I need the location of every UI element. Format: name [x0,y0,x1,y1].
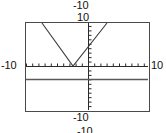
v-shaped-curve [42,23,107,66]
graphing-calculator-screenshot: -10 10 -10 10 -10 -10 [0,0,166,133]
plot-area [0,0,166,133]
x-axis [26,64,148,67]
